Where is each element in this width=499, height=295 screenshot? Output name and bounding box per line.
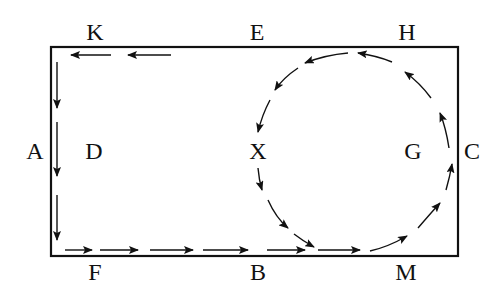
label-X: X <box>249 139 266 163</box>
label-C: C <box>464 139 480 163</box>
label-M: M <box>395 260 416 284</box>
label-B: B <box>250 260 266 284</box>
label-D: D <box>85 139 102 163</box>
label-H: H <box>398 20 415 44</box>
label-G: G <box>404 139 421 163</box>
label-A: A <box>26 139 43 163</box>
label-F: F <box>88 260 101 284</box>
label-K: K <box>86 20 103 44</box>
label-E: E <box>250 20 265 44</box>
